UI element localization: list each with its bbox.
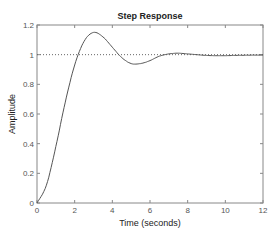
x-tick-label: 12 (259, 206, 268, 215)
y-tick-label: 1.2 (23, 21, 35, 30)
x-tick-label: 10 (221, 206, 230, 215)
x-axis-label: Time (seconds) (119, 218, 181, 228)
y-axis-label: Amplitude (7, 94, 17, 134)
plot-area (37, 25, 263, 203)
x-tick-label: 0 (35, 206, 40, 215)
x-tick-label: 8 (185, 206, 190, 215)
chart-title: Step Response (117, 11, 182, 21)
y-tick-label: 0.6 (23, 110, 35, 119)
step-response-chart: 02468101200.20.40.60.811.2 Step Response… (0, 0, 280, 238)
y-tick-label: 0.4 (23, 140, 35, 149)
x-tick-label: 2 (72, 206, 77, 215)
y-tick-label: 0.2 (23, 169, 35, 178)
y-tick-label: 0.8 (23, 80, 35, 89)
y-tick-label: 0 (30, 199, 35, 208)
y-tick-label: 1 (30, 51, 35, 60)
x-tick-label: 4 (110, 206, 115, 215)
x-tick-label: 6 (148, 206, 153, 215)
